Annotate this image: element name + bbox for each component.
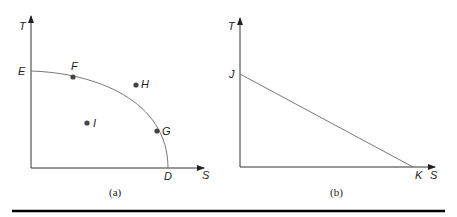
y-axis-label-a: T xyxy=(19,20,27,32)
panel-a: T S E D F H I G (a) xyxy=(18,16,210,199)
label-i: I xyxy=(93,117,96,129)
y-axis-label-b: T xyxy=(228,20,236,32)
label-g: G xyxy=(162,125,171,137)
x-axis-label-a: S xyxy=(202,169,210,181)
point-h xyxy=(133,82,138,87)
label-k: K xyxy=(415,169,423,181)
point-g xyxy=(154,128,159,133)
label-f: F xyxy=(71,60,79,72)
label-j: J xyxy=(228,68,235,80)
label-h: H xyxy=(141,78,149,90)
label-e: E xyxy=(18,65,26,77)
ppf-line xyxy=(240,74,413,167)
caption-b: (b) xyxy=(330,186,343,199)
panel-b: T S J K (b) xyxy=(228,18,438,199)
caption-a: (a) xyxy=(109,186,122,199)
point-f xyxy=(70,74,75,79)
point-i xyxy=(84,120,89,125)
figure: T S E D F H I G (a) T S J K (b) xyxy=(0,0,457,217)
x-axis-label-b: S xyxy=(430,169,438,181)
label-d: D xyxy=(164,170,172,182)
